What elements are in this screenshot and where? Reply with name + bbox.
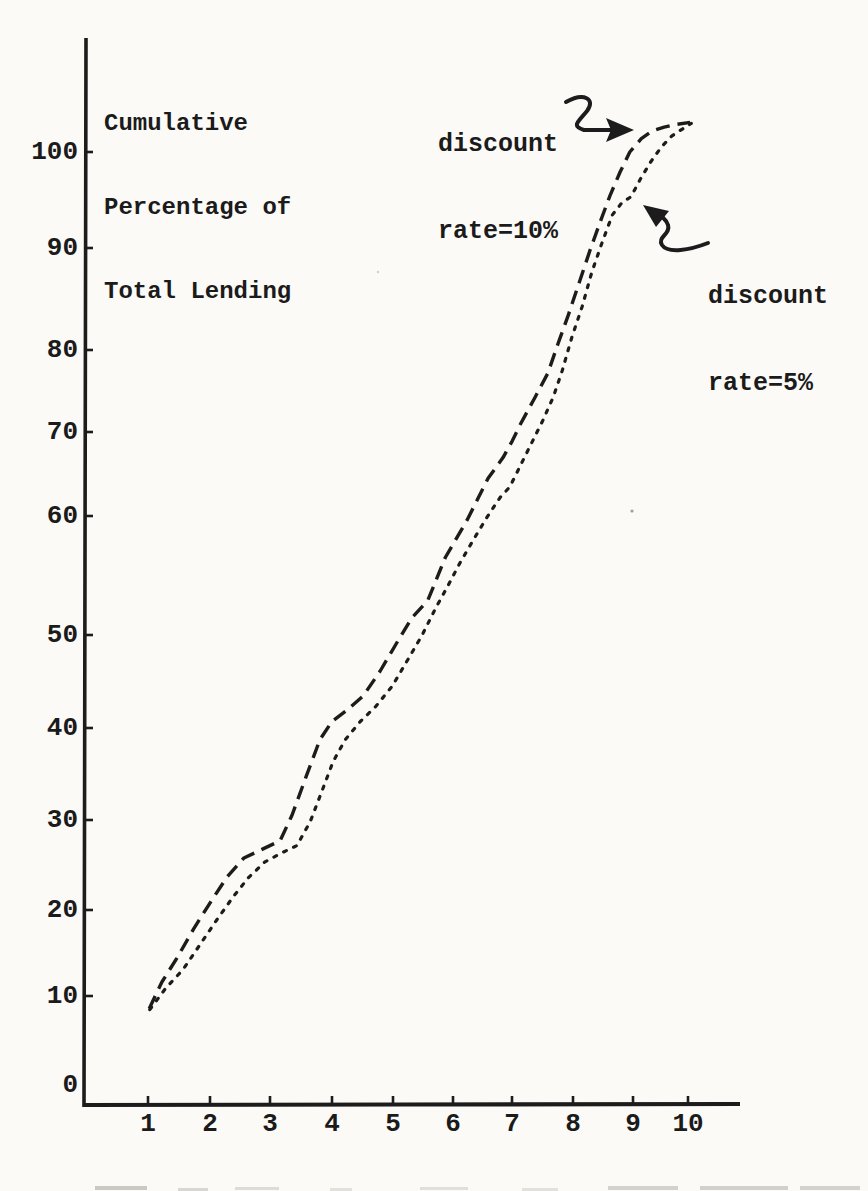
cutoff-caption-artifact (608, 1186, 678, 1190)
chart-title: Cumulative Percentage of Total Lending (104, 54, 291, 362)
label-discount-rate-10-line1: discount (438, 130, 558, 159)
arrow-5pct-head (643, 205, 669, 227)
label-discount-rate-10: discount rate=10% (438, 72, 558, 304)
x-axis-line (83, 1104, 740, 1105)
x-tick-label-1: 1 (118, 1110, 178, 1138)
label-discount-rate-5-line1: discount (708, 282, 828, 311)
y-tick-label-50: 50 (14, 621, 78, 649)
chart-title-line1: Cumulative (104, 110, 291, 138)
y-tick-label-70: 70 (14, 418, 78, 446)
label-discount-rate-10-line2: rate=10% (438, 217, 558, 246)
label-discount-rate-5: discount rate=5% (708, 224, 828, 456)
y-tick-label-60: 60 (14, 502, 78, 530)
x-tick-label-4: 4 (302, 1110, 362, 1138)
arrow-10pct (566, 97, 634, 142)
x-tick-label-3: 3 (240, 1110, 300, 1138)
y-tick-label-80: 80 (14, 336, 78, 364)
cutoff-caption-artifact (95, 1186, 147, 1190)
x-tick-label-7: 7 (482, 1110, 542, 1138)
x-tick-label-5: 5 (363, 1110, 423, 1138)
arrow-10pct-squiggle (566, 97, 612, 130)
chart-title-line2: Percentage of (104, 194, 291, 222)
x-tick-label-9: 9 (603, 1110, 663, 1138)
arrow-5pct (643, 205, 708, 250)
y-tick-label-30: 30 (14, 806, 78, 834)
y-tick-label-40: 40 (14, 714, 78, 742)
label-discount-rate-5-line2: rate=5% (708, 369, 828, 398)
y-tick-label-0: 0 (14, 1071, 78, 1099)
cutoff-caption-artifact (700, 1186, 788, 1190)
x-tick-label-6: 6 (423, 1110, 483, 1138)
x-tick-label-2: 2 (180, 1110, 240, 1138)
scan-speck (630, 509, 633, 512)
x-tick-label-10: 10 (658, 1110, 718, 1138)
cutoff-caption-artifact (235, 1187, 279, 1190)
y-tick-label-10: 10 (14, 982, 78, 1010)
x-tick-label-8: 8 (543, 1110, 603, 1138)
scan-speck (377, 271, 379, 273)
chart-title-line3: Total Lending (104, 278, 291, 306)
y-tick-label-100: 100 (14, 138, 78, 166)
y-axis-line (84, 38, 86, 1107)
cutoff-caption-artifact (420, 1187, 468, 1190)
scanned-chart-page: Cumulative Percentage of Total Lending d… (0, 0, 868, 1191)
cutoff-caption-artifact (800, 1186, 860, 1190)
y-tick-label-90: 90 (14, 234, 78, 262)
y-tick-label-20: 20 (14, 896, 78, 924)
